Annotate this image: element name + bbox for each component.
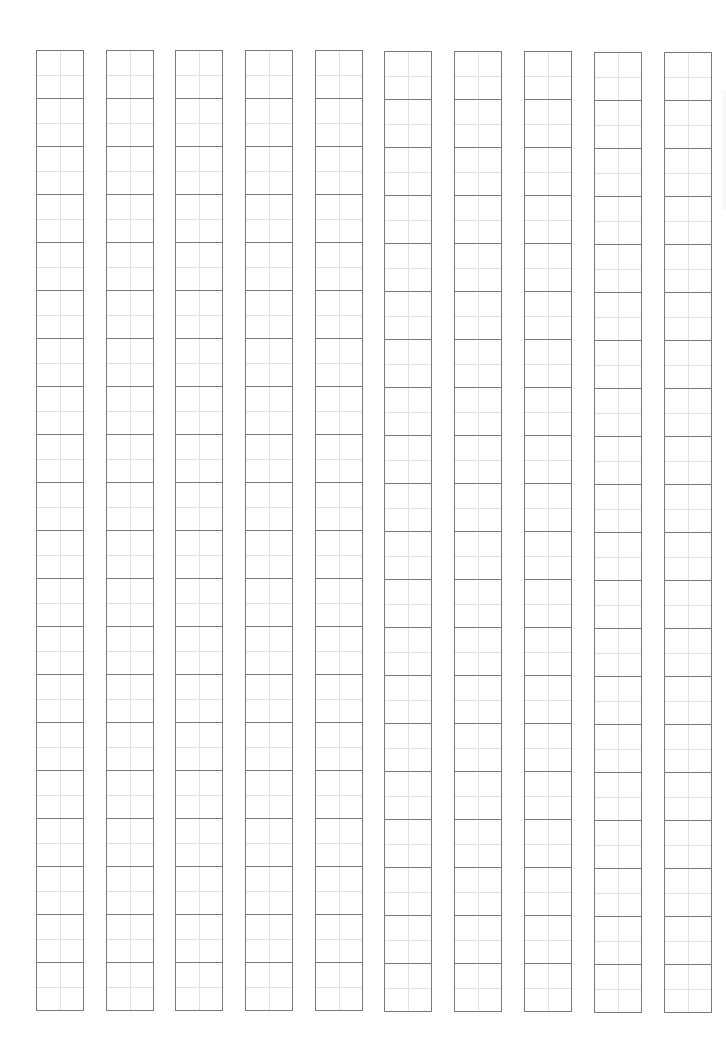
horizontal-guide-line — [246, 363, 292, 364]
horizontal-guide-line — [316, 507, 362, 508]
horizontal-guide-line — [316, 651, 362, 652]
horizontal-guide-line — [525, 76, 571, 77]
grid-column-2 — [106, 50, 154, 1011]
grid-cell — [246, 339, 292, 387]
horizontal-guide-line — [665, 797, 711, 798]
grid-cell — [316, 675, 362, 723]
horizontal-guide-line — [595, 797, 641, 798]
grid-cell — [176, 867, 222, 915]
horizontal-guide-line — [385, 268, 431, 269]
grid-cell — [176, 387, 222, 435]
horizontal-guide-line — [525, 124, 571, 125]
horizontal-guide-line — [455, 76, 501, 77]
horizontal-guide-line — [246, 603, 292, 604]
horizontal-guide-line — [37, 651, 83, 652]
horizontal-guide-line — [246, 315, 292, 316]
horizontal-guide-line — [246, 459, 292, 460]
horizontal-guide-line — [107, 603, 153, 604]
horizontal-guide-line — [246, 555, 292, 556]
horizontal-guide-line — [107, 939, 153, 940]
grid-cell — [525, 388, 571, 436]
grid-cell — [595, 197, 641, 245]
horizontal-guide-line — [246, 219, 292, 220]
grid-cell — [37, 867, 83, 915]
horizontal-guide-line — [595, 989, 641, 990]
horizontal-guide-line — [107, 315, 153, 316]
horizontal-guide-line — [107, 507, 153, 508]
grid-cell — [176, 915, 222, 963]
grid-cell — [595, 437, 641, 485]
horizontal-guide-line — [525, 508, 571, 509]
horizontal-guide-line — [385, 700, 431, 701]
grid-cell — [176, 723, 222, 771]
grid-cell — [246, 483, 292, 531]
horizontal-guide-line — [665, 989, 711, 990]
horizontal-guide-line — [246, 843, 292, 844]
horizontal-guide-line — [385, 748, 431, 749]
horizontal-guide-line — [455, 844, 501, 845]
grid-cell — [455, 916, 501, 964]
grid-cell — [595, 917, 641, 965]
horizontal-guide-line — [595, 701, 641, 702]
horizontal-guide-line — [176, 363, 222, 364]
horizontal-guide-line — [595, 509, 641, 510]
horizontal-guide-line — [665, 605, 711, 606]
grid-cell — [595, 821, 641, 869]
grid-cell — [176, 51, 222, 99]
horizontal-guide-line — [37, 411, 83, 412]
horizontal-guide-line — [665, 893, 711, 894]
grid-cell — [385, 100, 431, 148]
grid-cell — [316, 99, 362, 147]
grid-cell — [385, 340, 431, 388]
grid-cell — [385, 148, 431, 196]
horizontal-guide-line — [316, 75, 362, 76]
horizontal-guide-line — [385, 364, 431, 365]
horizontal-guide-line — [385, 652, 431, 653]
grid-cell — [525, 916, 571, 964]
grid-cell — [316, 435, 362, 483]
horizontal-guide-line — [665, 269, 711, 270]
horizontal-guide-line — [385, 844, 431, 845]
horizontal-guide-line — [107, 219, 153, 220]
horizontal-guide-line — [385, 460, 431, 461]
grid-cell — [665, 629, 711, 677]
horizontal-guide-line — [525, 460, 571, 461]
horizontal-guide-line — [455, 460, 501, 461]
grid-cell — [525, 292, 571, 340]
horizontal-guide-line — [316, 315, 362, 316]
horizontal-guide-line — [107, 891, 153, 892]
grid-cell — [37, 531, 83, 579]
grid-cell — [525, 100, 571, 148]
horizontal-guide-line — [595, 413, 641, 414]
horizontal-guide-line — [37, 75, 83, 76]
horizontal-guide-line — [176, 267, 222, 268]
horizontal-guide-line — [316, 555, 362, 556]
horizontal-guide-line — [176, 651, 222, 652]
grid-cell — [107, 531, 153, 579]
grid-cell — [37, 195, 83, 243]
horizontal-guide-line — [595, 173, 641, 174]
horizontal-guide-line — [246, 747, 292, 748]
grid-cell — [37, 435, 83, 483]
grid-cell — [385, 868, 431, 916]
grid-cell — [246, 387, 292, 435]
grid-cell — [316, 963, 362, 1010]
grid-cell — [37, 963, 83, 1010]
horizontal-guide-line — [176, 75, 222, 76]
horizontal-guide-line — [176, 459, 222, 460]
horizontal-guide-line — [246, 171, 292, 172]
grid-cell — [665, 773, 711, 821]
grid-cell — [665, 869, 711, 917]
grid-cell — [246, 147, 292, 195]
horizontal-guide-line — [455, 412, 501, 413]
grid-cell — [385, 916, 431, 964]
horizontal-guide-line — [316, 795, 362, 796]
horizontal-guide-line — [246, 987, 292, 988]
horizontal-guide-line — [665, 653, 711, 654]
horizontal-guide-line — [525, 172, 571, 173]
grid-cell — [107, 387, 153, 435]
horizontal-guide-line — [246, 75, 292, 76]
grid-cell — [525, 868, 571, 916]
horizontal-guide-line — [455, 364, 501, 365]
grid-cell — [316, 483, 362, 531]
